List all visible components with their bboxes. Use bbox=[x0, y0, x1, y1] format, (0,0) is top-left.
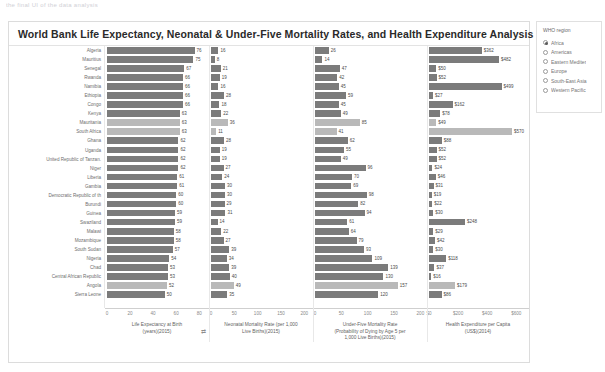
bar[interactable] bbox=[107, 210, 175, 217]
bar-row[interactable]: $29 bbox=[427, 227, 529, 236]
bar[interactable] bbox=[315, 255, 372, 262]
bar[interactable] bbox=[211, 219, 218, 226]
bar-row[interactable]: $88 bbox=[427, 136, 529, 145]
bar[interactable] bbox=[429, 128, 512, 135]
country-label[interactable]: Uganda bbox=[9, 146, 104, 155]
bar[interactable] bbox=[429, 264, 434, 271]
bar[interactable] bbox=[429, 119, 436, 126]
bar[interactable] bbox=[429, 92, 433, 99]
bar[interactable] bbox=[107, 65, 184, 72]
bar[interactable] bbox=[429, 101, 453, 108]
bar[interactable] bbox=[211, 273, 230, 280]
bar-row[interactable]: 58 bbox=[105, 236, 209, 245]
bar-row[interactable]: 16 bbox=[209, 46, 313, 55]
bar-row[interactable]: 24 bbox=[209, 173, 313, 182]
bar[interactable] bbox=[315, 219, 347, 226]
bar-row[interactable]: $78 bbox=[427, 109, 529, 118]
bar-row[interactable]: 39 bbox=[209, 263, 313, 272]
country-label[interactable]: Mauritania bbox=[9, 118, 104, 127]
bar-row[interactable]: 139 bbox=[313, 263, 427, 272]
filter-option-south-east-asia[interactable]: South-East Asia bbox=[543, 76, 596, 86]
bar[interactable] bbox=[211, 65, 221, 72]
bar-row[interactable]: $499 bbox=[427, 82, 529, 91]
bar-row[interactable]: 61 bbox=[105, 182, 209, 191]
bar[interactable] bbox=[429, 282, 455, 289]
bar[interactable] bbox=[211, 156, 220, 163]
bar[interactable] bbox=[429, 83, 502, 90]
bar[interactable] bbox=[107, 110, 180, 117]
bar[interactable] bbox=[211, 137, 224, 144]
bar[interactable] bbox=[315, 183, 351, 190]
bar-row[interactable]: 54 bbox=[105, 254, 209, 263]
radio-icon[interactable] bbox=[543, 50, 548, 55]
bar-row[interactable]: 61 bbox=[313, 218, 427, 227]
bar[interactable] bbox=[315, 110, 341, 117]
country-label[interactable]: Algeria bbox=[9, 46, 104, 55]
bar[interactable] bbox=[429, 74, 437, 81]
bar-row[interactable]: $27 bbox=[427, 91, 529, 100]
bar[interactable] bbox=[107, 56, 193, 63]
bar[interactable] bbox=[429, 156, 437, 163]
radio-icon[interactable] bbox=[543, 78, 548, 83]
country-label[interactable]: Sierra Leone bbox=[9, 290, 104, 299]
bar[interactable] bbox=[107, 137, 178, 144]
bar-row[interactable]: 45 bbox=[313, 82, 427, 91]
bar[interactable] bbox=[429, 183, 434, 190]
bar-row[interactable]: $37 bbox=[427, 263, 529, 272]
sort-icon[interactable]: ⇄ bbox=[201, 330, 206, 335]
country-label[interactable]: Congo bbox=[9, 100, 104, 109]
bar-row[interactable]: 94 bbox=[313, 209, 427, 218]
bar-row[interactable]: 45 bbox=[313, 100, 427, 109]
bar-row[interactable]: 16 bbox=[209, 82, 313, 91]
bar-row[interactable]: 47 bbox=[313, 64, 427, 73]
filter-option-eastern-mediter[interactable]: Eastern Mediter bbox=[543, 57, 596, 67]
bar[interactable] bbox=[211, 264, 229, 271]
bar-row[interactable]: 96 bbox=[313, 164, 427, 173]
bar-row[interactable]: 66 bbox=[105, 100, 209, 109]
bar-row[interactable]: 109 bbox=[313, 254, 427, 263]
bar[interactable] bbox=[315, 291, 378, 298]
bar[interactable] bbox=[211, 282, 234, 289]
bar[interactable] bbox=[107, 246, 173, 253]
bar-row[interactable]: $30 bbox=[427, 245, 529, 254]
radio-icon[interactable] bbox=[543, 88, 548, 93]
bar-row[interactable]: 59 bbox=[105, 218, 209, 227]
bar-row[interactable]: $248 bbox=[427, 218, 529, 227]
bar-row[interactable]: 69 bbox=[313, 182, 427, 191]
bar[interactable] bbox=[107, 237, 174, 244]
bar[interactable] bbox=[107, 101, 183, 108]
bar[interactable] bbox=[211, 255, 227, 262]
bar-row[interactable]: 55 bbox=[313, 146, 427, 155]
bar[interactable] bbox=[429, 110, 440, 117]
filter-option-western-pacific[interactable]: Western Pacific bbox=[543, 86, 596, 96]
bar[interactable] bbox=[429, 47, 482, 54]
bar[interactable] bbox=[315, 101, 339, 108]
bar-row[interactable]: $22 bbox=[427, 200, 529, 209]
bar-row[interactable]: 30 bbox=[209, 182, 313, 191]
bar-row[interactable]: $86 bbox=[427, 290, 529, 299]
bar-row[interactable]: 8 bbox=[209, 55, 313, 64]
bar[interactable] bbox=[107, 128, 180, 135]
country-label[interactable]: Liberia bbox=[9, 173, 104, 182]
bar[interactable] bbox=[211, 228, 221, 235]
bar-row[interactable]: 49 bbox=[209, 281, 313, 290]
bar[interactable] bbox=[211, 291, 227, 298]
bar[interactable] bbox=[107, 228, 174, 235]
filter-option-list[interactable]: AfricaAmericasEastern MediterEuropeSouth… bbox=[543, 38, 596, 95]
bar-row[interactable]: 75 bbox=[105, 55, 209, 64]
country-label[interactable]: Ethiopia bbox=[9, 91, 104, 100]
bar-row[interactable]: $179 bbox=[427, 281, 529, 290]
bar-row[interactable]: 61 bbox=[105, 173, 209, 182]
bar-row[interactable]: 39 bbox=[209, 245, 313, 254]
bar[interactable] bbox=[107, 165, 178, 172]
bar-row[interactable]: $49 bbox=[427, 118, 529, 127]
country-label[interactable]: Angola bbox=[9, 281, 104, 290]
bar[interactable] bbox=[211, 210, 225, 217]
bar[interactable] bbox=[315, 119, 360, 126]
bar-row[interactable]: 28 bbox=[209, 91, 313, 100]
bar-row[interactable]: 130 bbox=[313, 272, 427, 281]
bar[interactable] bbox=[107, 201, 176, 208]
bar-row[interactable]: $162 bbox=[427, 100, 529, 109]
bar[interactable] bbox=[429, 147, 437, 154]
bar[interactable] bbox=[315, 65, 340, 72]
